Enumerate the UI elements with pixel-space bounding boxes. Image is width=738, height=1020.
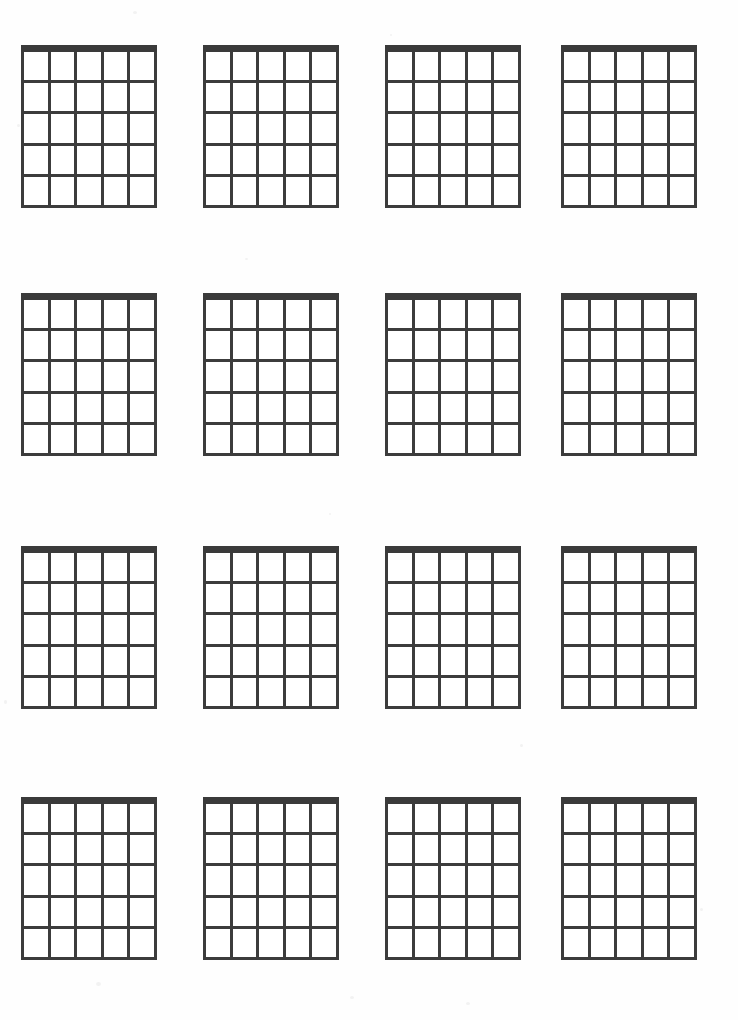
fret-cell[interactable] [441, 177, 465, 205]
fret-cell[interactable] [564, 584, 588, 612]
fret-cell[interactable] [468, 146, 492, 174]
fret-cell[interactable] [312, 52, 336, 80]
fret-cell[interactable] [670, 394, 694, 422]
fret-cell[interactable] [441, 898, 465, 926]
fret-cell[interactable] [670, 866, 694, 894]
fret-cell[interactable] [441, 114, 465, 142]
fret-cell[interactable] [441, 362, 465, 390]
chord-diagram[interactable] [21, 546, 157, 709]
fret-cell[interactable] [388, 177, 412, 205]
fret-cell[interactable] [206, 83, 230, 111]
fret-cell[interactable] [617, 929, 641, 957]
fret-cell[interactable] [468, 615, 492, 643]
chord-diagram[interactable] [385, 45, 521, 208]
fret-cell[interactable] [494, 331, 518, 359]
fret-cell[interactable] [388, 615, 412, 643]
fret-cell[interactable] [104, 114, 128, 142]
fret-cell[interactable] [617, 331, 641, 359]
fret-cell[interactable] [206, 647, 230, 675]
chord-diagram[interactable] [561, 546, 697, 709]
fret-cell[interactable] [564, 114, 588, 142]
fret-cell[interactable] [104, 177, 128, 205]
fret-cell[interactable] [494, 300, 518, 328]
fret-cell[interactable] [494, 425, 518, 453]
fret-cell[interactable] [77, 678, 101, 706]
chord-diagram[interactable] [385, 797, 521, 960]
fret-cell[interactable] [591, 177, 615, 205]
fret-cell[interactable] [441, 678, 465, 706]
fret-cell[interactable] [468, 835, 492, 863]
fret-cell[interactable] [415, 647, 439, 675]
fret-cell[interactable] [617, 678, 641, 706]
fret-cell[interactable] [494, 584, 518, 612]
fret-cell[interactable] [130, 678, 154, 706]
fret-cell[interactable] [233, 394, 257, 422]
fret-cell[interactable] [24, 866, 48, 894]
fret-cell[interactable] [259, 804, 283, 832]
fret-cell[interactable] [670, 615, 694, 643]
fret-cell[interactable] [670, 52, 694, 80]
fret-cell[interactable] [415, 584, 439, 612]
fret-cell[interactable] [388, 425, 412, 453]
fret-cell[interactable] [77, 553, 101, 581]
fret-cell[interactable] [441, 553, 465, 581]
fret-cell[interactable] [286, 177, 310, 205]
fret-cell[interactable] [617, 584, 641, 612]
fret-cell[interactable] [130, 615, 154, 643]
fret-cell[interactable] [494, 678, 518, 706]
fret-cell[interactable] [388, 929, 412, 957]
fret-cell[interactable] [233, 866, 257, 894]
fret-cell[interactable] [388, 394, 412, 422]
fret-cell[interactable] [259, 114, 283, 142]
fret-cell[interactable] [670, 83, 694, 111]
fret-cell[interactable] [51, 804, 75, 832]
fret-cell[interactable] [51, 52, 75, 80]
fret-cell[interactable] [259, 394, 283, 422]
fret-cell[interactable] [468, 114, 492, 142]
fret-cell[interactable] [441, 835, 465, 863]
fret-cell[interactable] [644, 584, 668, 612]
fret-cell[interactable] [77, 331, 101, 359]
chord-diagram[interactable] [21, 293, 157, 456]
fret-cell[interactable] [670, 362, 694, 390]
fret-cell[interactable] [564, 425, 588, 453]
fret-cell[interactable] [468, 553, 492, 581]
fret-cell[interactable] [415, 331, 439, 359]
fret-cell[interactable] [670, 331, 694, 359]
fret-cell[interactable] [286, 52, 310, 80]
fret-cell[interactable] [591, 362, 615, 390]
chord-diagram[interactable] [561, 797, 697, 960]
fret-cell[interactable] [617, 114, 641, 142]
fret-cell[interactable] [388, 866, 412, 894]
fret-cell[interactable] [233, 83, 257, 111]
fret-cell[interactable] [617, 553, 641, 581]
fret-cell[interactable] [441, 331, 465, 359]
fret-cell[interactable] [670, 647, 694, 675]
fret-cell[interactable] [104, 615, 128, 643]
fret-cell[interactable] [24, 553, 48, 581]
chord-diagram[interactable] [385, 546, 521, 709]
fret-cell[interactable] [388, 647, 412, 675]
fret-cell[interactable] [233, 678, 257, 706]
fret-cell[interactable] [441, 300, 465, 328]
fret-cell[interactable] [104, 83, 128, 111]
fret-cell[interactable] [494, 177, 518, 205]
fret-cell[interactable] [415, 83, 439, 111]
fret-cell[interactable] [206, 804, 230, 832]
fret-cell[interactable] [415, 898, 439, 926]
fret-cell[interactable] [564, 866, 588, 894]
fret-cell[interactable] [206, 678, 230, 706]
fret-cell[interactable] [77, 146, 101, 174]
fret-cell[interactable] [312, 615, 336, 643]
fret-cell[interactable] [24, 331, 48, 359]
fret-cell[interactable] [206, 898, 230, 926]
fret-cell[interactable] [644, 331, 668, 359]
fret-cell[interactable] [564, 929, 588, 957]
fret-cell[interactable] [206, 835, 230, 863]
fret-cell[interactable] [312, 898, 336, 926]
fret-cell[interactable] [617, 52, 641, 80]
fret-cell[interactable] [415, 553, 439, 581]
fret-cell[interactable] [441, 929, 465, 957]
fret-cell[interactable] [312, 835, 336, 863]
fret-cell[interactable] [206, 929, 230, 957]
